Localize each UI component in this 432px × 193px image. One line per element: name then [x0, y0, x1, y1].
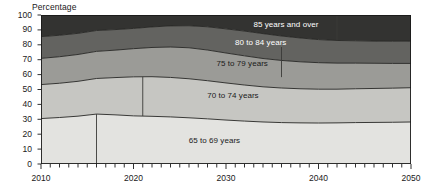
- x-tick-label-2030: 2030: [206, 173, 246, 183]
- band-label-4: 65 to 69 years: [189, 136, 240, 145]
- y-tick-label-20: 20: [8, 129, 32, 139]
- y-axis-title: Percentage: [32, 2, 76, 12]
- band-label-1: 80 to 84 years: [235, 38, 286, 47]
- y-tick-label-80: 80: [8, 39, 32, 49]
- band-label-0: 85 years and over: [254, 20, 319, 29]
- y-tick-label-90: 90: [8, 24, 32, 34]
- x-tick-label-2050: 2050: [391, 173, 431, 183]
- y-tick-label-0: 0: [8, 159, 32, 169]
- band-label-2: 75 to 79 years: [217, 59, 268, 68]
- x-tick-label-2010: 2010: [21, 173, 61, 183]
- x-tick-label-2020: 2020: [114, 173, 154, 183]
- y-tick-label-70: 70: [8, 54, 32, 64]
- stacked-area-chart: Percentage 1009080706050403020100 201020…: [0, 0, 432, 193]
- x-tick-label-2040: 2040: [299, 173, 339, 183]
- y-tick-label-10: 10: [8, 144, 32, 154]
- y-tick-label-60: 60: [8, 69, 32, 79]
- y-tick-label-30: 30: [8, 114, 32, 124]
- y-tick-label-50: 50: [8, 84, 32, 94]
- y-tick-label-40: 40: [8, 99, 32, 109]
- band-label-3: 70 to 74 years: [207, 91, 258, 100]
- y-tick-label-100: 100: [8, 10, 32, 20]
